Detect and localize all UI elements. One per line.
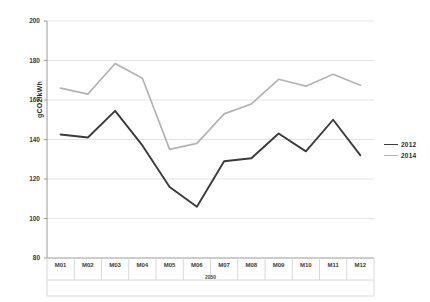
legend-label-2012: 2012 [401,141,416,148]
series-line-2012 [61,111,361,207]
y-tick-label: 200 [18,17,40,24]
y-tick-label: 100 [18,215,40,222]
x-tick-label: M04 [129,262,155,268]
y-tick-label: 140 [18,136,40,143]
line-chart: gCO2/kWh 20018016014012010080 M01M02M03M… [0,0,430,302]
x-tick-label: M03 [102,262,128,268]
x-tick-label: M09 [266,262,292,268]
legend-item-2012[interactable]: 2012 [384,139,430,150]
x-tick-label: M01 [48,262,74,268]
legend: 2012 2014 [384,139,430,161]
legend-label-2014: 2014 [401,152,416,159]
series-line-2014 [61,63,361,149]
x-tick-label: M05 [157,262,183,268]
x-tick-label: M11 [320,262,346,268]
legend-swatch-2012 [384,144,398,145]
y-tick-label: 80 [18,254,40,261]
x-tick-label: M02 [75,262,101,268]
y-tick-label: 160 [18,96,40,103]
legend-item-2014[interactable]: 2014 [384,150,430,161]
y-tick-label: 180 [18,57,40,64]
x-tick-label: M08 [238,262,264,268]
x-tick-label: M06 [184,262,210,268]
y-tick-label: 120 [18,175,40,182]
x-tick-label: M12 [347,262,373,268]
x-axis-group-label: 2050 [191,274,231,280]
legend-swatch-2014 [384,155,398,156]
x-tick-label: M07 [211,262,237,268]
plot-area [0,0,430,302]
x-tick-label: M10 [293,262,319,268]
